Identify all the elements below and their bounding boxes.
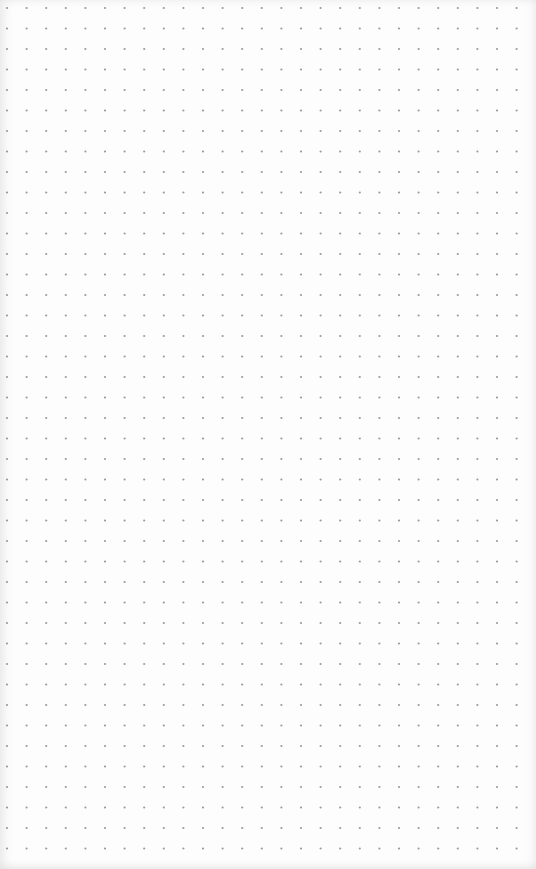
grid-dot xyxy=(457,27,459,29)
grid-dot xyxy=(143,273,145,275)
grid-dot xyxy=(163,683,165,685)
grid-dot xyxy=(516,273,518,275)
grid-dot xyxy=(182,847,184,849)
grid-dot xyxy=(320,663,322,665)
grid-dot xyxy=(339,130,341,132)
grid-dot xyxy=(457,191,459,193)
grid-dot xyxy=(476,745,478,747)
grid-dot xyxy=(182,499,184,501)
grid-dot xyxy=(476,786,478,788)
grid-dot xyxy=(65,581,67,583)
grid-dot xyxy=(339,745,341,747)
grid-dot xyxy=(418,232,420,234)
grid-dot xyxy=(45,704,47,706)
grid-dot xyxy=(437,724,439,726)
grid-dot xyxy=(26,663,28,665)
grid-dot xyxy=(84,109,86,111)
grid-dot xyxy=(359,765,361,767)
grid-dot xyxy=(280,109,282,111)
grid-dot xyxy=(398,519,400,521)
grid-dot xyxy=(378,48,380,50)
grid-dot xyxy=(418,704,420,706)
grid-dot xyxy=(143,417,145,419)
grid-dot xyxy=(45,150,47,152)
grid-dot xyxy=(261,417,263,419)
grid-dot xyxy=(280,745,282,747)
grid-dot xyxy=(261,48,263,50)
grid-dot xyxy=(280,191,282,193)
grid-dot xyxy=(280,232,282,234)
grid-dot xyxy=(163,478,165,480)
grid-dot xyxy=(241,109,243,111)
grid-dot xyxy=(84,601,86,603)
grid-dot xyxy=(143,786,145,788)
grid-dot xyxy=(202,622,204,624)
grid-dot xyxy=(320,437,322,439)
grid-dot xyxy=(359,642,361,644)
grid-dot xyxy=(104,478,106,480)
grid-dot xyxy=(398,601,400,603)
grid-dot xyxy=(496,601,498,603)
grid-dot xyxy=(124,560,126,562)
grid-dot xyxy=(65,499,67,501)
grid-dot xyxy=(398,376,400,378)
grid-dot xyxy=(65,314,67,316)
grid-dot xyxy=(202,273,204,275)
grid-dot xyxy=(418,724,420,726)
grid-dot xyxy=(339,109,341,111)
grid-dot xyxy=(398,765,400,767)
grid-dot xyxy=(6,314,8,316)
grid-dot xyxy=(65,724,67,726)
grid-dot xyxy=(45,745,47,747)
grid-dot xyxy=(104,130,106,132)
grid-dot xyxy=(26,109,28,111)
grid-dot xyxy=(84,847,86,849)
grid-dot xyxy=(418,827,420,829)
grid-dot xyxy=(6,89,8,91)
grid-dot xyxy=(222,212,224,214)
grid-dot xyxy=(104,437,106,439)
grid-dot xyxy=(516,827,518,829)
grid-dot xyxy=(84,417,86,419)
grid-dot xyxy=(457,109,459,111)
grid-dot xyxy=(163,437,165,439)
grid-dot xyxy=(45,827,47,829)
grid-dot xyxy=(261,130,263,132)
grid-dot xyxy=(378,663,380,665)
grid-dot xyxy=(320,355,322,357)
grid-dot xyxy=(84,622,86,624)
grid-dot xyxy=(241,847,243,849)
grid-dot xyxy=(84,683,86,685)
grid-dot xyxy=(359,683,361,685)
grid-dot xyxy=(26,314,28,316)
grid-dot xyxy=(398,130,400,132)
grid-dot xyxy=(6,581,8,583)
grid-dot xyxy=(300,786,302,788)
grid-dot xyxy=(6,396,8,398)
grid-dot xyxy=(418,212,420,214)
grid-dot xyxy=(143,437,145,439)
grid-dot xyxy=(339,437,341,439)
grid-dot xyxy=(398,273,400,275)
grid-dot xyxy=(359,27,361,29)
grid-dot xyxy=(143,478,145,480)
grid-dot xyxy=(104,335,106,337)
grid-dot xyxy=(45,458,47,460)
grid-dot xyxy=(280,581,282,583)
grid-dot xyxy=(339,27,341,29)
grid-dot xyxy=(359,335,361,337)
grid-dot xyxy=(320,622,322,624)
grid-dot xyxy=(516,253,518,255)
grid-dot xyxy=(280,786,282,788)
grid-dot xyxy=(359,191,361,193)
grid-dot xyxy=(45,232,47,234)
grid-dot xyxy=(26,499,28,501)
grid-dot xyxy=(398,806,400,808)
grid-dot xyxy=(6,683,8,685)
grid-dot xyxy=(418,499,420,501)
grid-dot xyxy=(516,683,518,685)
grid-dot xyxy=(45,519,47,521)
grid-dot xyxy=(182,417,184,419)
grid-dot xyxy=(418,437,420,439)
grid-dot xyxy=(84,765,86,767)
